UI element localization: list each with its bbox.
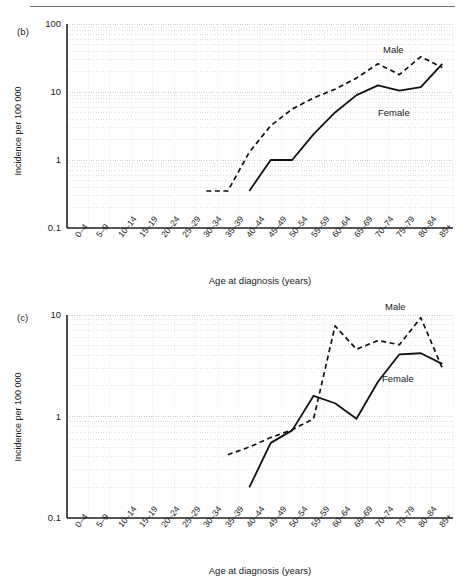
series-label-female-c: Female <box>382 373 414 384</box>
series-label-female-b: Female <box>378 107 410 118</box>
figure-page: (b) Incidence per 100 000 Age at diagnos… <box>0 0 469 586</box>
chart-panel-b: (b) Incidence per 100 000 Age at diagnos… <box>0 14 469 286</box>
y-tick-label-b-2: 1 <box>31 154 61 165</box>
y-tick-label-c-2: 0.1 <box>31 512 61 523</box>
series-label-male-c: Male <box>385 301 406 312</box>
y-tick-label-b-1: 10 <box>31 86 61 97</box>
y-tick-label-c-0: 10 <box>31 309 61 320</box>
y-tick-label-c-1: 1 <box>31 411 61 422</box>
plot-area-c <box>0 300 469 580</box>
y-tick-label-b-3: 0.1 <box>31 222 61 233</box>
y-tick-label-b-0: 100 <box>31 18 61 29</box>
series-label-male-b: Male <box>383 44 404 55</box>
chart-panel-c: (c) Incidence per 100 000 Age at diagnos… <box>0 300 469 580</box>
top-divider <box>30 6 455 7</box>
